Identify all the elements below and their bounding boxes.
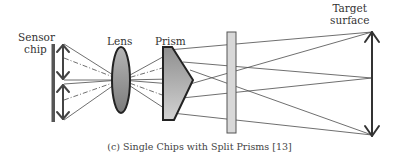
label-sensor-chip: Sensor chip bbox=[18, 31, 55, 55]
label-target-line1: Target bbox=[330, 2, 369, 14]
sensor-image-arrows bbox=[57, 45, 69, 119]
label-sensor-line1: Sensor bbox=[18, 31, 55, 43]
label-sensor-line2: chip bbox=[18, 43, 55, 55]
sensor-chip bbox=[52, 44, 56, 122]
lens bbox=[112, 47, 130, 113]
label-target-surface: Target surface bbox=[330, 2, 369, 26]
label-target-line2: surface bbox=[330, 14, 369, 26]
diagram-canvas: Sensor chip Lens Prism Target surface (c… bbox=[0, 0, 399, 160]
light-rays bbox=[64, 32, 372, 135]
label-lens: Lens bbox=[107, 35, 132, 47]
optical-plate bbox=[227, 32, 236, 133]
split-prism bbox=[163, 47, 193, 120]
label-prism: Prism bbox=[155, 35, 186, 47]
target-surface-arrow bbox=[365, 32, 379, 136]
figure-caption: (c) Single Chips with Split Prisms [13] bbox=[0, 141, 399, 152]
